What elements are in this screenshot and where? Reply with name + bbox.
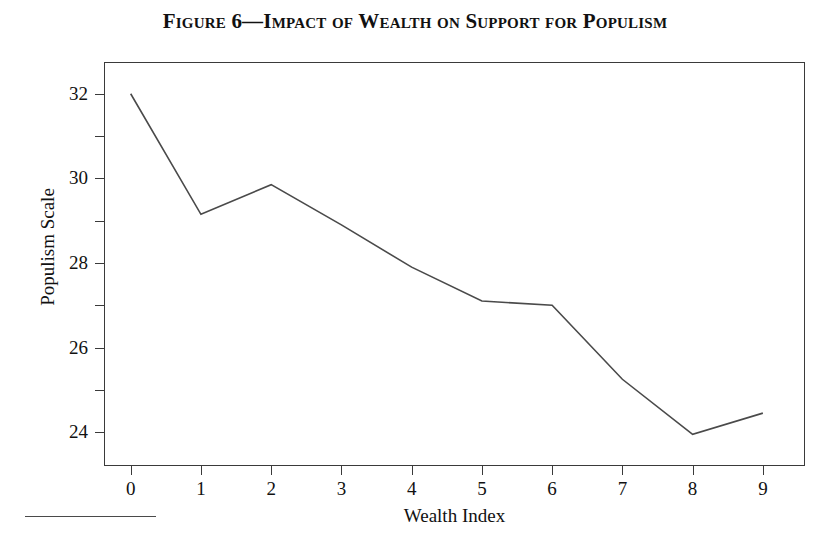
x-tick	[763, 466, 764, 475]
y-axis-title: Populism Scale	[37, 147, 59, 347]
x-tick	[412, 466, 413, 475]
x-tick	[201, 466, 202, 475]
x-tick	[552, 466, 553, 475]
x-tick-label: 4	[392, 479, 432, 498]
y-tick-major	[95, 94, 104, 95]
x-tick-label: 5	[462, 479, 502, 498]
y-tick-minor	[95, 390, 104, 391]
populism-line-chart: 2426283032 0123456789 Populism Scale Wea…	[0, 0, 830, 537]
x-tick-label: 6	[532, 479, 572, 498]
y-tick-minor	[95, 221, 104, 222]
x-tick	[482, 466, 483, 475]
y-tick-minor	[95, 305, 104, 306]
x-tick-label: 3	[321, 479, 361, 498]
y-tick-major	[95, 263, 104, 264]
x-tick	[693, 466, 694, 475]
x-tick-label: 0	[111, 479, 151, 498]
x-tick	[271, 466, 272, 475]
x-tick	[131, 466, 132, 475]
y-tick-label: 32	[32, 84, 88, 103]
footnote-separator-rule	[25, 516, 156, 517]
x-tick-label: 1	[181, 479, 221, 498]
y-tick-major	[95, 348, 104, 349]
y-tick-major	[95, 178, 104, 179]
x-tick-label: 8	[673, 479, 713, 498]
y-tick-label: 24	[32, 422, 88, 441]
x-tick	[341, 466, 342, 475]
x-axis-title: Wealth Index	[104, 505, 805, 527]
x-tick-label: 7	[602, 479, 642, 498]
plot-series-layer	[104, 62, 805, 466]
x-tick-label: 9	[743, 479, 783, 498]
x-tick-label: 2	[251, 479, 291, 498]
series-line-populism-scale	[131, 94, 763, 435]
y-tick-major	[95, 432, 104, 433]
x-tick	[622, 466, 623, 475]
y-tick-minor	[95, 136, 104, 137]
